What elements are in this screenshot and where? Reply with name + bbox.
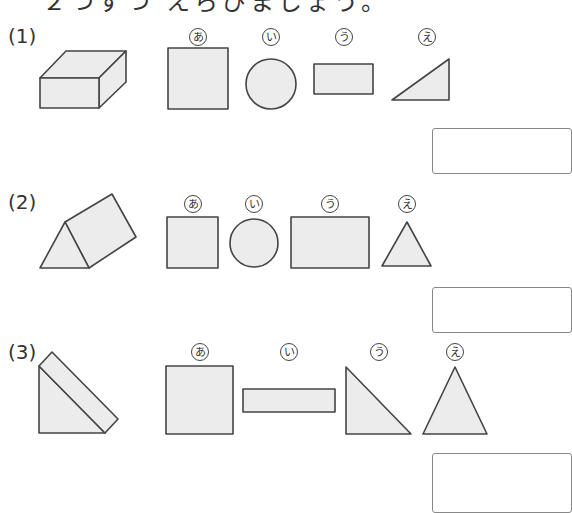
square-shape-3a[interactable] [166,366,233,434]
cuboid-solid [40,51,126,108]
answer-box-1[interactable] [432,128,572,174]
triangle-shape-2e[interactable] [382,222,431,266]
circle-shape-1i[interactable] [246,59,296,109]
right-triangle-shape-3u[interactable] [346,367,411,434]
circle-shape-2i[interactable] [230,219,278,267]
square-shape-2a[interactable] [167,217,218,268]
rectangle-shape-1u[interactable] [314,64,373,94]
rectangle-shape-3i[interactable] [243,389,335,412]
answer-box-2[interactable] [432,287,572,333]
triangular-prism-solid [40,194,136,268]
answer-box-3[interactable] [432,453,572,513]
right-triangular-prism-solid [39,352,118,433]
triangle-shape-3e[interactable] [423,367,487,434]
rectangle-shape-2u[interactable] [291,217,369,268]
square-shape-1a[interactable] [168,48,228,109]
right-triangle-shape-1e[interactable] [392,59,449,100]
